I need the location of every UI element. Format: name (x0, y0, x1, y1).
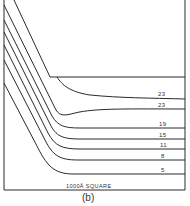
contour-label: 15 (159, 132, 166, 138)
contour-label: 8 (161, 153, 165, 159)
contour-15 (4, 32, 185, 139)
contour-label: 23 (158, 102, 165, 108)
contour-label: 23 (158, 91, 165, 97)
contour-label: 11 (160, 142, 167, 148)
surface-line (14, 0, 185, 77)
figure-caption: (b) (82, 192, 94, 203)
contour-label: 5 (161, 167, 165, 173)
contour-23-upper (57, 77, 185, 99)
scale-label: 1000Å SQUARE (66, 183, 111, 189)
contour-label: 19 (159, 121, 166, 127)
